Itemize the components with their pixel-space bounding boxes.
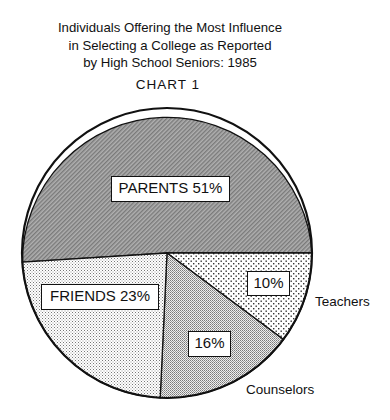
label-teachers-percent: 10% [247, 271, 290, 296]
label-friends: FRIENDS 23% [41, 284, 159, 310]
label-parents: PARENTS 51% [111, 176, 230, 202]
label-teachers-name: Teachers [315, 294, 370, 309]
pie-chart [0, 0, 390, 420]
label-counselors-percent: 16% [188, 331, 231, 357]
slice-friends [22, 253, 167, 398]
label-counselors-name: Counselors [246, 382, 314, 397]
